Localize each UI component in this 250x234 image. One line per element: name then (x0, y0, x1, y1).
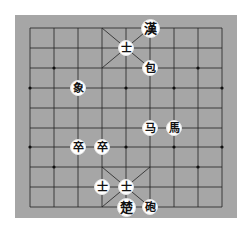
chess-piece[interactable]: 士 (118, 40, 134, 56)
chess-piece[interactable]: 士 (94, 179, 110, 195)
position-marker-dot (196, 66, 199, 69)
chess-piece[interactable]: 楚 (117, 198, 136, 217)
chess-piece[interactable]: 包 (142, 60, 158, 76)
position-marker-dot (28, 86, 31, 89)
position-marker-dot (52, 165, 55, 168)
chess-piece[interactable]: 砲 (142, 199, 158, 215)
chess-piece[interactable]: 卒 (70, 139, 86, 155)
position-marker-dot (52, 66, 55, 69)
position-marker-dot (196, 165, 199, 168)
chess-piece[interactable]: 漢 (141, 19, 160, 38)
position-marker-dot (220, 86, 223, 89)
position-marker-dot (172, 145, 175, 148)
position-marker-dot (124, 145, 127, 148)
chess-piece[interactable]: 卒 (94, 139, 110, 155)
chess-piece[interactable]: 象 (70, 80, 86, 96)
position-marker-dot (124, 86, 127, 89)
chess-piece[interactable]: 士 (118, 179, 134, 195)
position-marker-dot (172, 86, 175, 89)
position-marker-dot (220, 145, 223, 148)
chess-piece[interactable]: 馬 (166, 120, 182, 136)
position-marker-dot (28, 145, 31, 148)
chess-piece[interactable]: 马 (142, 120, 158, 136)
